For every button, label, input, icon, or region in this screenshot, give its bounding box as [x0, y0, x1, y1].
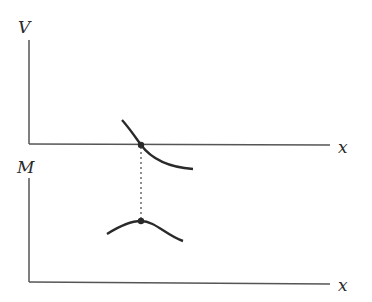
- shear-moment-diagram: V x M x: [0, 0, 372, 302]
- shear-plot: V x: [18, 17, 348, 169]
- m-x-axis-label: x: [338, 275, 348, 295]
- m-axis-label: M: [16, 157, 35, 177]
- moment-curve: [107, 221, 183, 241]
- v-x-axis: [29, 144, 330, 145]
- moment-plot: M x: [16, 157, 348, 295]
- m-x-axis: [29, 282, 330, 284]
- v-axis-label: V: [18, 17, 32, 37]
- maximum-point: [138, 218, 144, 224]
- v-x-axis-label: x: [338, 137, 348, 157]
